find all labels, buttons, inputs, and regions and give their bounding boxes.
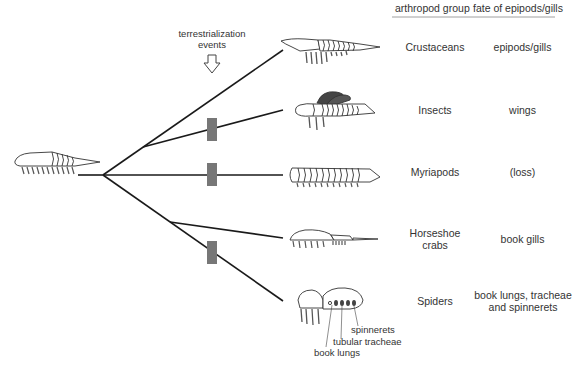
group-horseshoe-line1: Horseshoe bbox=[395, 227, 475, 239]
tree-branches bbox=[78, 50, 283, 301]
header-fate: fate of epipods/gills bbox=[473, 2, 563, 14]
terrestrialization-markers bbox=[207, 118, 217, 264]
annotation-line1: terrestrialization bbox=[172, 28, 252, 39]
group-myriapods: Myriapods bbox=[395, 166, 475, 178]
group-crustaceans: Crustaceans bbox=[395, 41, 475, 53]
annotation-line2: events bbox=[172, 39, 252, 50]
label-tubular-tracheae: tubular tracheae bbox=[333, 336, 402, 347]
fate-spiders: book lungs, tracheae and spinnerets bbox=[468, 289, 576, 313]
terrestrialization-label: terrestrialization events bbox=[172, 28, 252, 50]
fate-spiders-line2: and spinnerets bbox=[468, 301, 576, 313]
marker-insects bbox=[207, 118, 217, 141]
group-insects: Insects bbox=[395, 104, 475, 116]
crustacean-illustration bbox=[281, 39, 380, 64]
ancestor-illustration bbox=[15, 152, 100, 174]
group-horseshoe-crabs: Horseshoe crabs bbox=[395, 227, 475, 251]
fate-horseshoe-crabs: book gills bbox=[480, 233, 565, 245]
group-horseshoe-line2: crabs bbox=[395, 239, 475, 251]
label-spinnerets: spinnerets bbox=[351, 324, 395, 335]
insect-illustration bbox=[296, 92, 376, 130]
fate-myriapods: (loss) bbox=[480, 166, 565, 178]
label-book-lungs: book lungs bbox=[314, 347, 360, 358]
horseshoe-crab-illustration bbox=[290, 230, 378, 248]
down-arrow-icon bbox=[204, 55, 220, 73]
group-spiders: Spiders bbox=[395, 295, 475, 307]
myriapod-illustration bbox=[290, 168, 380, 187]
header-arthropod-group: arthropod group bbox=[395, 2, 470, 14]
fate-spiders-line1: book lungs, tracheae bbox=[468, 289, 576, 301]
marker-spiders bbox=[207, 241, 217, 264]
fate-crustaceans: epipods/gills bbox=[480, 41, 565, 53]
marker-myriapods bbox=[207, 163, 217, 186]
fate-insects: wings bbox=[480, 104, 565, 116]
